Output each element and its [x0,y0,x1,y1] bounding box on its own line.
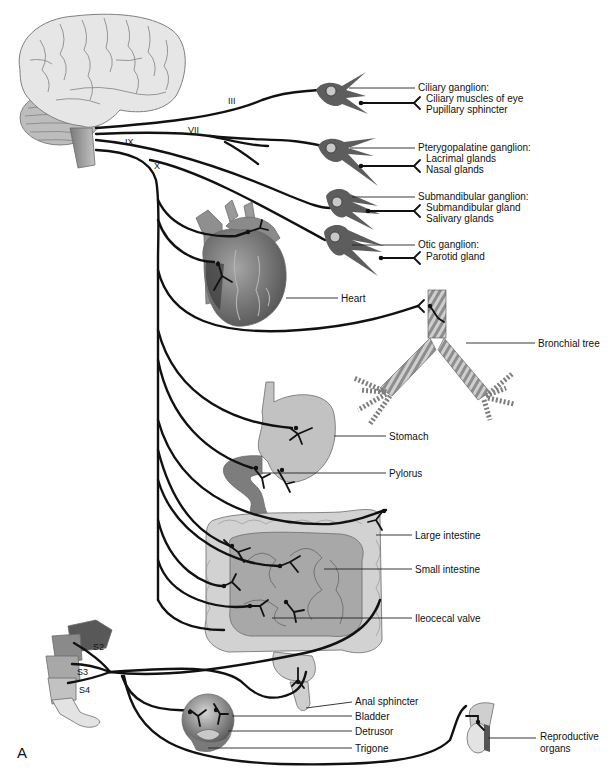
ganglia [316,72,420,276]
heart-label: Heart [341,293,366,304]
ileocecal-valve-label: Ileocecal valve [415,613,481,624]
bronchial-tree-label: Bronchial tree [538,338,600,349]
pterygopalatine-target-2: Nasal glands [426,164,484,175]
detrusor-label: Detrusor [355,726,394,737]
panel-label: A [17,744,27,761]
nerve-IX [96,140,330,208]
stomach [223,382,335,520]
ciliary-target-1: Ciliary muscles of eye [426,93,524,104]
ciliary-ganglion-neuron [316,72,420,114]
reproductive-label-line1: Reproductive [540,731,599,742]
synapse-dot [278,564,282,568]
synapse-dot [248,604,252,608]
bronchial-tree [354,290,514,424]
large-intestine-label: Large intestine [415,530,481,541]
brain [19,14,185,168]
otic-ganglion-neuron [324,225,420,276]
sacral-S2-label: S2 [93,642,104,652]
pylorus-label: Pylorus [389,468,422,479]
sacral-S4-label: S4 [79,685,90,695]
sacral-S3-label: S3 [77,667,88,677]
synapse-dot [280,468,284,472]
reproductive-label-line2: organs [540,743,571,754]
synapse-dot [214,708,218,712]
submandibular-target-2: Salivary glands [426,213,494,224]
cranial-nerve-III-label: III [228,96,236,106]
synapse-dot [428,304,432,308]
synapse-dot [230,544,234,548]
synapse-dot [294,426,298,430]
pterygopalatine-ganglion-label: Pterygopalatine ganglion: [418,142,531,153]
cerebrum [19,14,185,127]
otic-ganglion-label: Otic ganglion: [418,239,479,250]
synapse-dot [254,466,258,470]
otic-target-1: Parotid gland [426,251,485,262]
brainstem [70,128,95,168]
ciliary-ganglion-label: Ciliary ganglion: [418,82,489,93]
small-intestine-label: Small intestine [415,564,480,575]
parasympathetic-nervous-system-diagram: III VII IX X [0,0,615,775]
nerve-X-pulmonary [158,270,418,331]
nerve-X-trunk [96,150,159,600]
submandibular-ganglion-neuron [326,189,420,230]
submandibular-target-1: Submandibular gland [426,202,521,213]
pterygopalatine-ganglion-neuron [318,138,420,186]
synapse-dot [222,584,226,588]
synapse-dot [382,509,386,513]
bladder [182,694,234,752]
submandibular-ganglion-label: Submandibular ganglion: [418,191,529,202]
anal-sphincter-label: Anal sphincter [355,696,419,707]
stomach-label: Stomach [389,431,428,442]
synapse-dot [188,710,192,714]
ganglion-labels: Ciliary ganglion: Ciliary muscles of eye… [418,82,531,262]
synapse-dot [246,230,250,234]
heart [196,200,286,326]
rectum [273,652,316,682]
bladder-label: Bladder [355,711,390,722]
bronchial-synapse-pre [418,300,424,312]
anal-sphincter-leader [306,702,352,708]
synapse-dot [216,262,220,266]
ciliary-target-2: Pupillary sphincter [426,104,508,115]
synapse-dot [476,720,480,724]
pterygopalatine-target-1: Lacrimal glands [426,153,496,164]
trigone-label: Trigone [355,743,389,754]
synapse-dot [296,680,300,684]
synapse-dot [284,600,288,604]
reproductive-organs [467,703,494,753]
